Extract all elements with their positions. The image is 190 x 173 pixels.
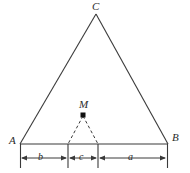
geometry-diagram <box>0 0 190 173</box>
vertex-label-a: A <box>9 135 16 146</box>
triangle-side-right <box>96 14 168 144</box>
dashed-connector-left <box>68 116 83 144</box>
segment-label-c: c <box>79 152 83 162</box>
point-label-m: M <box>79 99 88 110</box>
dimension-arrow-b <box>21 156 67 161</box>
point-m-marker <box>81 113 86 118</box>
segment-label-b: b <box>38 152 43 162</box>
geometry-figure: C M A B b c a <box>0 0 190 173</box>
segment-label-a: a <box>128 152 133 162</box>
dashed-connector-right <box>83 116 98 144</box>
triangle-side-left <box>20 14 96 144</box>
vertex-label-b: B <box>172 132 179 143</box>
vertex-label-c: C <box>92 1 99 12</box>
